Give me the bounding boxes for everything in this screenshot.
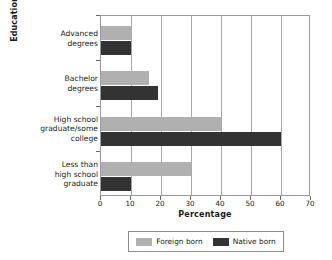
- y-axis-label-line: college: [18, 134, 98, 144]
- x-axis-tick-label: 0: [90, 199, 110, 208]
- y-axis-category-label: High schoolgraduate/somecollege: [18, 115, 98, 144]
- y-axis-label-line: Bachelor: [18, 74, 98, 84]
- x-axis-tick-label: 60: [270, 199, 290, 208]
- legend-swatch-icon: [136, 238, 152, 246]
- bar: [101, 26, 131, 40]
- y-axis-category-labels: Less thanhigh schoolgraduateHigh schoolg…: [18, 15, 98, 196]
- gridline: [251, 16, 252, 195]
- x-axis-tick-label: 20: [150, 199, 170, 208]
- gridline: [191, 16, 192, 195]
- y-axis-category-label: Less thanhigh schoolgraduate: [18, 160, 98, 189]
- legend-entry[interactable]: Foreign born: [136, 237, 203, 246]
- y-axis-label-line: Less than: [18, 160, 98, 170]
- y-axis-category-label: Bachelordegrees: [18, 74, 98, 93]
- gridline: [281, 16, 282, 195]
- x-axis-tick-label: 40: [210, 199, 230, 208]
- y-axis-label-line: graduate/some: [18, 124, 98, 134]
- bar: [101, 177, 131, 191]
- y-axis-tick: [96, 151, 100, 152]
- plot-area: [100, 15, 310, 196]
- bar: [101, 162, 191, 176]
- x-axis-tick-label: 10: [120, 199, 140, 208]
- y-axis-tick: [96, 60, 100, 61]
- x-axis-title: Percentage: [100, 210, 310, 219]
- y-axis-label-line: degrees: [18, 84, 98, 94]
- bar-chart: Education Less thanhigh schoolgraduateHi…: [0, 0, 332, 260]
- y-axis-label-line: Advanced: [18, 29, 98, 39]
- y-axis-category-label: Advanceddegrees: [18, 29, 98, 48]
- bar: [101, 86, 158, 100]
- y-axis-label-line: high school: [18, 170, 98, 180]
- y-axis-tick: [96, 15, 100, 16]
- legend-label: Foreign born: [156, 237, 203, 246]
- x-axis-tick-label: 30: [180, 199, 200, 208]
- y-axis-tick: [96, 106, 100, 107]
- x-axis-tick-label: 70: [300, 199, 320, 208]
- y-axis-label-line: graduate: [18, 179, 98, 189]
- legend-swatch-icon: [213, 238, 229, 246]
- legend-label: Native born: [233, 237, 276, 246]
- bar: [101, 117, 221, 131]
- y-axis-label-line: degrees: [18, 39, 98, 49]
- gridline: [221, 16, 222, 195]
- y-axis-label-line: High school: [18, 115, 98, 125]
- chart-legend: Foreign bornNative born: [128, 231, 284, 252]
- bar: [101, 71, 149, 85]
- x-axis-tick-label: 50: [240, 199, 260, 208]
- bar: [101, 132, 281, 146]
- legend-entry[interactable]: Native born: [213, 237, 276, 246]
- bar: [101, 41, 131, 55]
